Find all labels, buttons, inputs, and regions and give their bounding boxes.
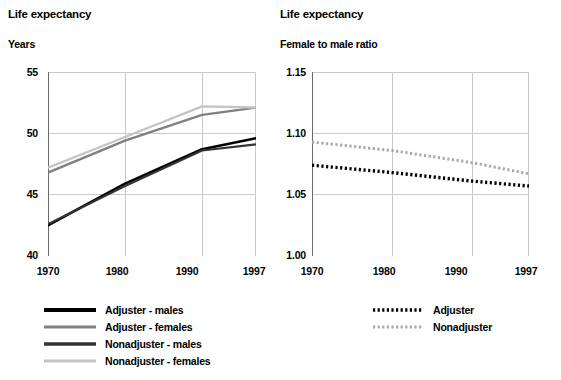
left-xtick-1: 1980 xyxy=(93,265,141,277)
legend-line-swatch-icon xyxy=(44,355,96,367)
legend-item[interactable]: Adjuster - males xyxy=(44,301,211,318)
right-ytick-2: 1.05 xyxy=(270,188,306,200)
left-xtick-2: 1990 xyxy=(163,265,211,277)
left-ytick-3: 40 xyxy=(10,249,38,261)
legend-line-swatch-icon xyxy=(44,338,96,350)
series-line xyxy=(48,138,256,225)
left-chart-title: Life expectancy xyxy=(8,8,91,20)
left-chart-legend: Adjuster - males Adjuster - females Nona… xyxy=(44,301,211,369)
right-xtick-1: 1980 xyxy=(360,265,408,277)
right-chart-title: Life expectancy xyxy=(280,8,363,20)
right-ytick-1: 1.10 xyxy=(270,127,306,139)
right-plot-area xyxy=(312,72,529,256)
left-xtick-0: 1970 xyxy=(24,265,72,277)
left-chart-panel: Life expectancy Years 55 50 45 40 1970 1… xyxy=(0,0,272,380)
legend-line-swatch-icon xyxy=(44,304,96,316)
series-line xyxy=(312,142,529,174)
series-line xyxy=(48,108,256,173)
left-ytick-2: 45 xyxy=(10,188,38,200)
legend-dotted-swatch-icon xyxy=(372,304,424,316)
right-ytick-0: 1.15 xyxy=(270,66,306,78)
left-chart-subtitle: Years xyxy=(8,38,35,50)
right-chart-legend: Adjuster Nonadjuster xyxy=(372,301,492,335)
legend-item-label: Adjuster xyxy=(433,304,474,316)
right-chart-subtitle: Female to male ratio xyxy=(280,38,378,50)
legend-item-label: Nonadjuster - males xyxy=(105,338,202,350)
left-ytick-1: 50 xyxy=(10,127,38,139)
legend-item[interactable]: Nonadjuster - females xyxy=(44,352,211,369)
left-plot-area xyxy=(48,72,256,256)
left-ytick-0: 55 xyxy=(10,66,38,78)
series-line xyxy=(312,165,529,186)
right-ytick-3: 1.00 xyxy=(270,249,306,261)
left-xtick-3: 1997 xyxy=(230,265,278,277)
legend-item[interactable]: Adjuster xyxy=(372,301,492,318)
legend-line-swatch-icon xyxy=(44,321,96,333)
legend-item-label: Adjuster - females xyxy=(105,321,192,333)
right-plot-svg xyxy=(312,72,529,256)
legend-item-label: Nonadjuster xyxy=(433,321,492,333)
legend-item-label: Nonadjuster - females xyxy=(105,355,211,367)
right-xtick-3: 1997 xyxy=(502,265,550,277)
right-chart-panel: Life expectancy Female to male ratio 1.1… xyxy=(272,0,561,380)
legend-dotted-swatch-icon xyxy=(372,321,424,333)
legend-item[interactable]: Nonadjuster xyxy=(372,318,492,335)
legend-item-label: Adjuster - males xyxy=(105,304,184,316)
right-xtick-2: 1990 xyxy=(432,265,480,277)
left-plot-svg xyxy=(48,72,256,256)
legend-item[interactable]: Adjuster - females xyxy=(44,318,211,335)
right-xtick-0: 1970 xyxy=(288,265,336,277)
legend-item[interactable]: Nonadjuster - males xyxy=(44,335,211,352)
